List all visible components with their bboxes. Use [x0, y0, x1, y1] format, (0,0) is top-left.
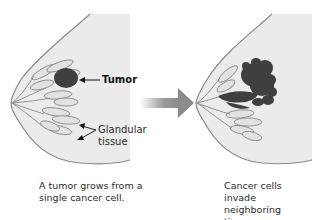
- label-tumor: Tumor: [102, 74, 137, 86]
- progression-arrow-icon: [140, 88, 194, 118]
- diagram-stage: Tumor Glandular tissue A tumor grows fro…: [0, 0, 315, 220]
- caption-right: Cancer cells invade neighboring tissue.: [224, 180, 315, 220]
- tumor-shape: [54, 68, 78, 88]
- label-glandular-tissue: Glandular tissue: [98, 124, 147, 148]
- right-breast-illustration: [196, 14, 312, 164]
- caption-left: A tumor grows from a single cancer cell.: [39, 180, 142, 204]
